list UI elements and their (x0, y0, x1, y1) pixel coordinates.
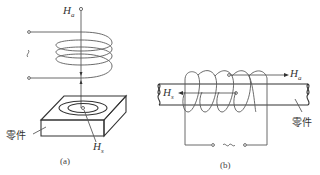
diagram-canvas (0, 0, 320, 175)
label-sub: a (298, 74, 302, 82)
part-label-b: 零件 (292, 114, 312, 129)
coil-terminal-bottom (28, 77, 31, 80)
label-h: H (290, 67, 298, 79)
top-terminal (79, 7, 82, 10)
field-label-ha-b: Ha (290, 67, 301, 82)
part-block-a (41, 96, 126, 136)
ac-source-icon-b (223, 144, 235, 146)
caption-a: (a) (60, 156, 70, 166)
coil-a (56, 32, 112, 78)
circuit-terminal-right (244, 144, 247, 147)
field-label-hs-a: Hs (93, 140, 104, 155)
solenoid-coil-b (183, 71, 267, 145)
caption-b: (b) (220, 160, 231, 170)
coil-terminal-top (28, 31, 31, 34)
label-h: H (163, 86, 171, 98)
field-label-ha-a: Ha (63, 4, 74, 19)
label-h: H (63, 4, 71, 16)
arrow-right-icon (284, 73, 289, 77)
panel-b (158, 71, 309, 147)
circuit-terminal-left (212, 144, 215, 147)
part-leader-a (33, 127, 46, 134)
ac-source-icon-a (27, 50, 29, 57)
arrow-down-icon (80, 72, 83, 76)
panel-a (27, 7, 126, 142)
part-label-a: 零件 (6, 127, 26, 142)
field-label-hs-b: Hs (163, 86, 174, 101)
label-sub: s (101, 147, 104, 155)
label-h: H (93, 140, 101, 152)
label-sub: a (71, 11, 75, 19)
ha-origin-dot (228, 74, 231, 77)
arrow-left-icon (178, 91, 183, 95)
label-sub: s (171, 93, 174, 101)
arrow-up-icon (80, 80, 83, 84)
